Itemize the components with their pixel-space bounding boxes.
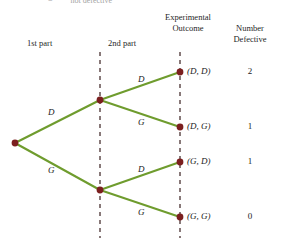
branch-root-to-D <box>15 100 100 143</box>
branch-label-stage1-upper: D <box>48 108 55 117</box>
node-leaf-DD <box>177 69 184 76</box>
branch-label-stage2-lower-upper: D <box>138 165 145 174</box>
outcome-label-1: (D, G) <box>187 122 211 131</box>
branch-label-stage2-lower-lower: G <box>138 208 145 217</box>
branch-label-stage2-upper-upper: D <box>138 75 145 84</box>
node-leaf-GD <box>177 159 184 166</box>
tree-diagram-figure: = not defective 1st part 2nd part Experi… <box>0 0 283 244</box>
outcome-label-2: (G, D) <box>187 157 211 166</box>
count-value-3: 0 <box>230 212 270 221</box>
count-value-2: 1 <box>230 157 270 166</box>
node-stage1-G <box>97 187 104 194</box>
node-root <box>12 140 19 147</box>
count-value-0: 2 <box>230 67 270 76</box>
branch-root-to-G <box>15 143 100 190</box>
branch-label-stage2-upper-lower: G <box>138 118 145 127</box>
count-value-1: 1 <box>230 122 270 131</box>
outcome-label-0: (D, D) <box>187 67 211 76</box>
branch-label-stage1-lower: G <box>48 166 55 175</box>
outcome-label-3: (G, G) <box>187 212 211 221</box>
node-stage1-D <box>97 97 104 104</box>
node-leaf-GG <box>177 214 184 221</box>
node-leaf-DG <box>177 124 184 131</box>
